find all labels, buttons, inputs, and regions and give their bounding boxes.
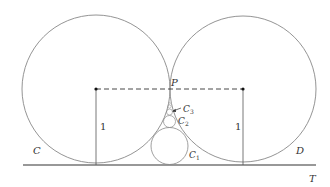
circle-c1 <box>151 128 188 165</box>
center-dot-d <box>241 87 244 90</box>
center-dot-c <box>94 87 97 90</box>
label-c1: C1 <box>189 150 200 161</box>
circle-c3 <box>167 109 173 115</box>
label-d: D <box>295 145 304 156</box>
label-p: P <box>170 77 178 88</box>
label-t: T <box>309 173 317 184</box>
label-c: C <box>33 145 41 156</box>
label-radius-left: 1 <box>100 121 106 132</box>
circle-c2 <box>164 116 176 128</box>
circles-diagram: P C D T 1 1 C3 C2 C1 <box>0 0 330 187</box>
circle-c4 <box>168 105 171 108</box>
label-c2: C2 <box>178 116 189 127</box>
label-c3: C3 <box>183 104 194 115</box>
label-radius-right: 1 <box>235 121 241 132</box>
